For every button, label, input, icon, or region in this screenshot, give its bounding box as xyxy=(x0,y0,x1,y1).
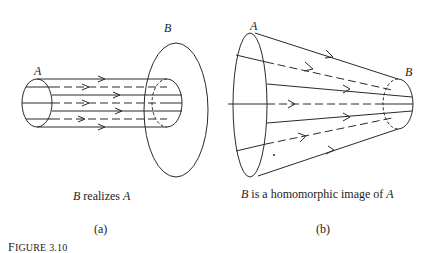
caption-text: realizes xyxy=(80,189,123,203)
panel-b-sublabel: (b) xyxy=(316,223,330,235)
figure-label: FIGURE 3.10 xyxy=(8,241,67,253)
panel-b-set-b-label: B xyxy=(405,66,412,78)
caption-var-a: A xyxy=(386,187,393,201)
panel-a-set-b-label: B xyxy=(164,22,171,34)
panel-b-diagram xyxy=(228,33,413,177)
figure-canvas xyxy=(0,0,440,253)
caption-var-a: A xyxy=(123,189,130,203)
figure-label-rest: IGURE 3.10 xyxy=(15,242,68,253)
figure-label-initial: F xyxy=(8,240,15,253)
panel-a-sublabel: (a) xyxy=(94,223,107,235)
panel-a-caption: B realizes A xyxy=(73,190,130,202)
panel-a-diagram xyxy=(22,43,208,177)
panel-b-caption: B is a homomorphic image of A xyxy=(241,188,394,200)
panel-a-set-a-label: A xyxy=(34,65,41,77)
panel-b-set-a-label: A xyxy=(250,20,257,32)
caption-text: is a homomorphic image of xyxy=(248,187,386,201)
set-a-ellipse xyxy=(233,33,267,177)
set-b-ellipse xyxy=(144,43,208,177)
